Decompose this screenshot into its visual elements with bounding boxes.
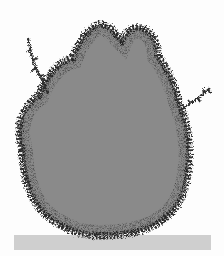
shrub-illustration xyxy=(0,0,224,256)
left-sprig xyxy=(27,38,48,94)
illustration-canvas xyxy=(0,0,224,256)
right-sprig xyxy=(180,88,211,110)
